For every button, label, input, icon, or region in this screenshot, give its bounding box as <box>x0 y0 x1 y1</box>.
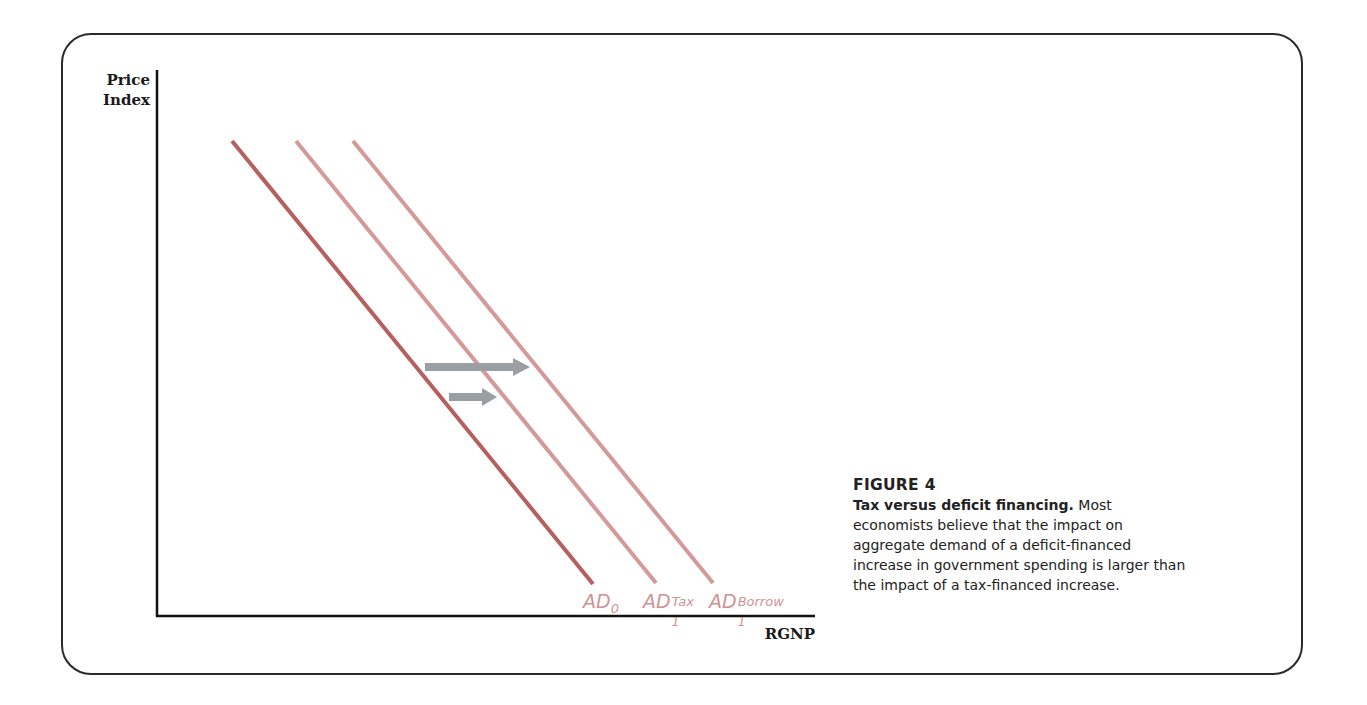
curve-label-ad1-borrow: ADBorrow1 <box>709 590 737 612</box>
curve-label-base: AD <box>709 590 737 612</box>
curve-label-ad1-tax: ADTax1 <box>643 590 671 612</box>
arrow-icon <box>449 388 497 406</box>
curve-ad1-borrow <box>353 141 713 583</box>
x-axis-label: RGNP <box>745 625 815 643</box>
curve-label-sup: Borrow <box>738 594 784 609</box>
y-axis-label-line2: Index <box>100 90 150 110</box>
curve-label-sup: Tax <box>672 594 694 609</box>
y-axis-label-line1: Price <box>100 70 150 90</box>
figure-number: FIGURE 4 <box>853 475 1193 495</box>
curve-label-sub: 1 <box>738 615 746 629</box>
figure-caption: FIGURE 4 Tax versus deficit financing. M… <box>853 475 1193 595</box>
curve-label-sub: 0 <box>611 601 619 616</box>
curve-label-base: AD <box>643 590 671 612</box>
curve-ad1-tax <box>296 141 656 583</box>
caption-title: Tax versus deficit financing. <box>853 497 1074 513</box>
curve-label-ad0: AD0 <box>583 590 619 612</box>
y-axis-label: Price Index <box>100 70 150 110</box>
curve-label-sub: 1 <box>672 615 680 629</box>
curve-label-base: AD <box>583 590 611 612</box>
curve-ad0 <box>232 141 593 584</box>
